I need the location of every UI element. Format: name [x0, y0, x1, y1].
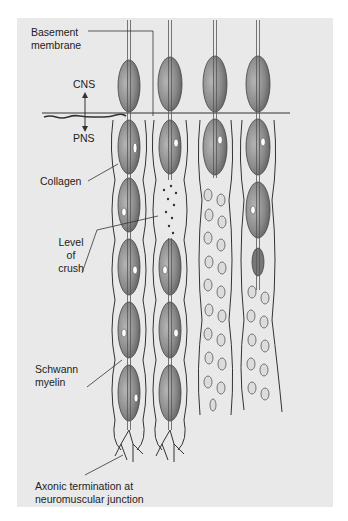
- label-cns: CNS: [73, 78, 95, 91]
- crush-debris: [163, 185, 177, 234]
- label-axonic-termination: Axonic termination at neuromuscular junc…: [35, 480, 144, 506]
- fiber-column-4: [240, 20, 282, 412]
- label-schwann-myelin: Schwann myelin: [35, 363, 78, 389]
- fiber-column-2: [152, 20, 187, 462]
- schwann-cells: [204, 189, 226, 411]
- label-basement-membrane: Basement membrane: [31, 26, 81, 52]
- cns-pns-boundary: [42, 113, 290, 118]
- label-collagen: Collagen: [40, 175, 81, 188]
- schwann-cells: [247, 286, 269, 400]
- fiber-column-3: [198, 20, 232, 415]
- cns-arrow-icon: [82, 92, 88, 113]
- fiber-column-1: [111, 20, 146, 462]
- label-level-of-crush: Level of crush: [50, 236, 92, 275]
- label-pns: PNS: [73, 132, 95, 145]
